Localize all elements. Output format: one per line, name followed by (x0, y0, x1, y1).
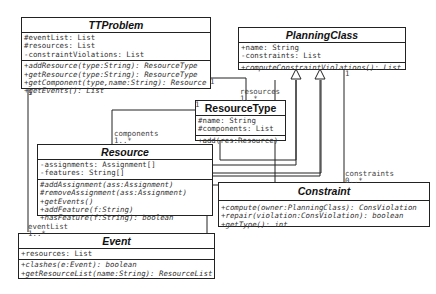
multiplicity-components-far: 1..* (114, 137, 132, 145)
operations-section: +computeConstraintViolations(): List (239, 63, 405, 73)
operation: +getResourceList(name:String): ResourceL… (21, 270, 212, 278)
class-name: TTProblem (22, 18, 210, 33)
attributes-section: +name: String -constraints: List (239, 43, 405, 63)
attribute: +resources: List (21, 250, 212, 258)
class-resourcetype[interactable]: ResourceType #name: String #components: … (195, 100, 286, 141)
attribute: -constraints: List (241, 52, 403, 60)
multiplicity-components-near: 1 (195, 101, 199, 109)
operation: +getEvents(): List (24, 87, 208, 95)
operation: +computeConstraintViolations(): List (241, 64, 403, 72)
multiplicity-resources-far: 1..* (240, 95, 258, 103)
class-resource[interactable]: Resource -assignments: Assignment[] -fea… (37, 144, 213, 216)
class-name: Resource (38, 145, 212, 160)
attribute: #components: List (198, 125, 283, 133)
class-name: Constraint (219, 183, 429, 201)
class-planningclass[interactable]: PlanningClass +name: String -constraints… (238, 27, 406, 70)
attributes-section: -assignments: Assignment[] -features: St… (38, 160, 212, 180)
multiplicity-eventlist-far: 1..* (28, 230, 46, 238)
attributes-section: #name: String #components: List (196, 116, 285, 136)
multiplicity-resources-near: 1 (210, 78, 214, 86)
operation: +getType(): int (221, 221, 427, 229)
attributes-section: +resources: List (19, 249, 214, 260)
attribute: -features: String[] (40, 169, 210, 177)
operations-section: #addAssignment(ass:Assignment) #removeAs… (38, 180, 212, 224)
class-constraint[interactable]: Constraint +compute(owner:PlanningClass)… (218, 182, 430, 227)
class-event[interactable]: Event +resources: List +clashes(e:Event)… (18, 233, 215, 279)
multiplicity-eventlist-near: 1 (28, 89, 32, 97)
class-ttproblem[interactable]: TTProblem #eventList: List #resources: L… (21, 17, 211, 89)
uml-class-diagram: TTProblem #eventList: List #resources: L… (0, 0, 436, 294)
class-name: PlanningClass (239, 28, 405, 43)
operations-section: +compute(owner:PlanningClass): ConsViola… (219, 201, 429, 230)
attributes-section: #eventList: List #resources: List -const… (22, 33, 210, 61)
multiplicity-constraints-near: 1 (345, 70, 349, 78)
operations-section: +clashes(e:Event): boolean +getResourceL… (19, 260, 214, 279)
multiplicity-constraints-far: 0..* (345, 177, 363, 185)
class-name: ResourceType (196, 101, 285, 116)
class-name: Event (19, 234, 214, 249)
operations-section: +addResource(type:String): ResourceType … (22, 61, 210, 97)
attribute: -constraintViolations: List (24, 51, 208, 59)
